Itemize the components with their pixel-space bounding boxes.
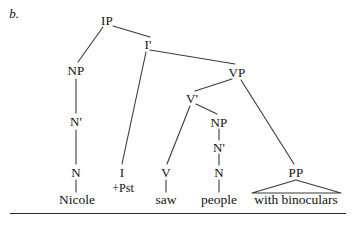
tree-leaf-w-saw: saw (156, 193, 177, 207)
tree-edge-ip-to-ibar (113, 26, 150, 37)
tree-edge-ibar-to-i (122, 52, 146, 164)
tree-node-n2: N (214, 166, 224, 179)
tree-leaf-w-nicole: Nicole (59, 193, 95, 207)
tree-edge-vp-to-vbar (195, 79, 232, 91)
tree-node-nbar2: N' (213, 141, 225, 154)
tree-node-pp: PP (289, 166, 304, 179)
tree-edge-vbar-to-np2 (196, 104, 217, 114)
tree-leaf-w-with-bin: with binoculars (254, 193, 338, 207)
tree-feature-pst: +Pst (112, 182, 133, 194)
tree-node-ibar: I' (144, 38, 151, 51)
bottom-divider-rule (10, 213, 346, 214)
tree-node-vp: VP (228, 66, 245, 79)
pp-triangle (252, 180, 341, 193)
tree-leaf-w-people: people (201, 193, 237, 207)
tree-node-ip: IP (101, 14, 113, 27)
tree-edge-vp-to-pp (241, 80, 294, 164)
tree-edge-vbar-to-v (167, 106, 190, 164)
tree-node-nbar1: N' (70, 115, 82, 128)
edges-group (76, 26, 294, 192)
tree-node-v: V (161, 166, 171, 179)
tree-edge-ip-to-np1 (78, 27, 103, 62)
tree-edge-ibar-to-vp (150, 50, 235, 64)
tree-node-i: I (120, 166, 125, 179)
tree-node-vbar: V' (186, 92, 198, 105)
tree-node-n1: N (71, 166, 81, 179)
tree-node-np1: NP (67, 64, 84, 77)
pp-triangle-group (252, 180, 341, 193)
tree-node-np2: NP (210, 116, 227, 129)
figure-canvas: b. IPNPN'NI'IVPV'VNPN'NPP +Pst Nicolesaw… (0, 0, 354, 226)
